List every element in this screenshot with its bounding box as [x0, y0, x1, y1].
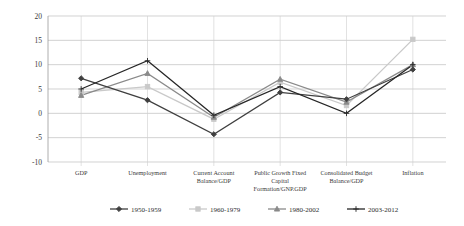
economic-indicators-line-chart: -10-505101520GDPUnemploymentCurrent Acco… [0, 0, 464, 226]
y-axis-tick-label: -10 [32, 158, 42, 167]
legend-label-1980-2002: 1980-2002 [289, 206, 320, 214]
data-point-1980-2002-3 [278, 76, 283, 81]
chart-canvas: -10-505101520GDPUnemploymentCurrent Acco… [0, 0, 464, 226]
marker-diamond [116, 206, 121, 211]
data-point-legend-1960-1979 [196, 207, 200, 211]
marker-square [411, 37, 415, 41]
x-axis-category-label: Balance/GDP [329, 177, 364, 184]
marker-triangle [145, 71, 150, 76]
x-axis-category-label: Formation/GNP.GDP [254, 185, 308, 192]
data-point-legend-1950-1959 [116, 206, 121, 211]
legend-label-1960-1979: 1960-1979 [210, 206, 241, 214]
x-axis-category-label: Current Account [193, 169, 234, 176]
x-axis-category-label: Consolidated Budget [320, 169, 372, 176]
data-point-1950-1959-0 [79, 76, 84, 81]
x-axis-category-label: GDP [75, 169, 88, 176]
y-axis-tick-label: 20 [35, 12, 43, 21]
y-axis-tick-label: 10 [35, 60, 43, 69]
x-axis-category-label: Capital [271, 177, 289, 184]
legend-label-1950-1959: 1950-1959 [131, 206, 162, 214]
series-line-1980-2002 [81, 65, 413, 118]
x-axis-category-label: Unemployment [128, 169, 167, 176]
marker-diamond [145, 98, 150, 103]
marker-square [196, 207, 200, 211]
marker-square [145, 84, 149, 88]
x-axis-category-label: Inflation [402, 169, 423, 176]
x-axis-category-label: Public Growth Fixed [254, 169, 307, 176]
y-axis-tick-label: -5 [36, 133, 42, 142]
data-point-1960-1979-1 [145, 84, 149, 88]
marker-diamond [410, 67, 415, 72]
y-axis-tick-label: 5 [38, 85, 42, 94]
data-point-1960-1979-5 [411, 37, 415, 41]
y-axis-tick-label: 0 [38, 109, 42, 118]
y-axis-tick-label: 15 [35, 36, 43, 45]
data-point-legend-2003-2012 [353, 206, 359, 212]
legend-label-2003-2012: 2003-2012 [368, 206, 399, 214]
marker-triangle [278, 76, 283, 81]
data-point-1980-2002-1 [145, 71, 150, 76]
x-axis-category-label: Balance/GDP [197, 177, 232, 184]
marker-diamond [79, 76, 84, 81]
data-point-1950-1959-5 [410, 67, 415, 72]
data-point-1950-1959-1 [145, 98, 150, 103]
